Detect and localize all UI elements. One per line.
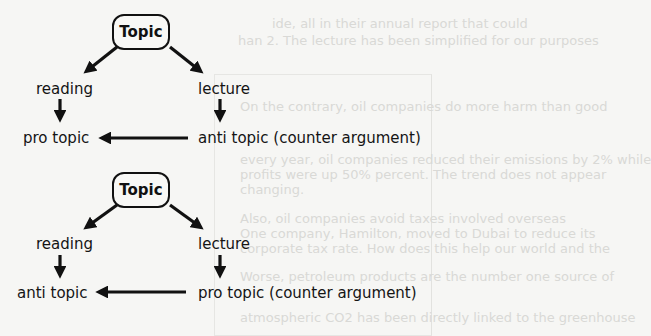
right-result-node: anti topic (counter argument) [198,131,421,146]
arrow-topic-to-reading [88,47,117,70]
reading-node: reading [36,82,93,97]
topic-node: Topic [112,14,170,50]
topic-node: Topic [112,172,170,208]
arrow-topic-to-reading [88,205,117,226]
left-result-node: anti topic [17,286,88,301]
lecture-node: lecture [198,237,250,252]
arrow-topic-to-lecture [170,47,199,70]
left-result-node: pro topic [23,131,89,146]
reading-node: reading [36,237,93,252]
topic-label: Topic [119,23,162,41]
arrow-topic-to-lecture [170,205,199,226]
lecture-node: lecture [198,82,250,97]
right-result-node: pro topic (counter argument) [198,286,417,301]
topic-label: Topic [119,181,162,199]
